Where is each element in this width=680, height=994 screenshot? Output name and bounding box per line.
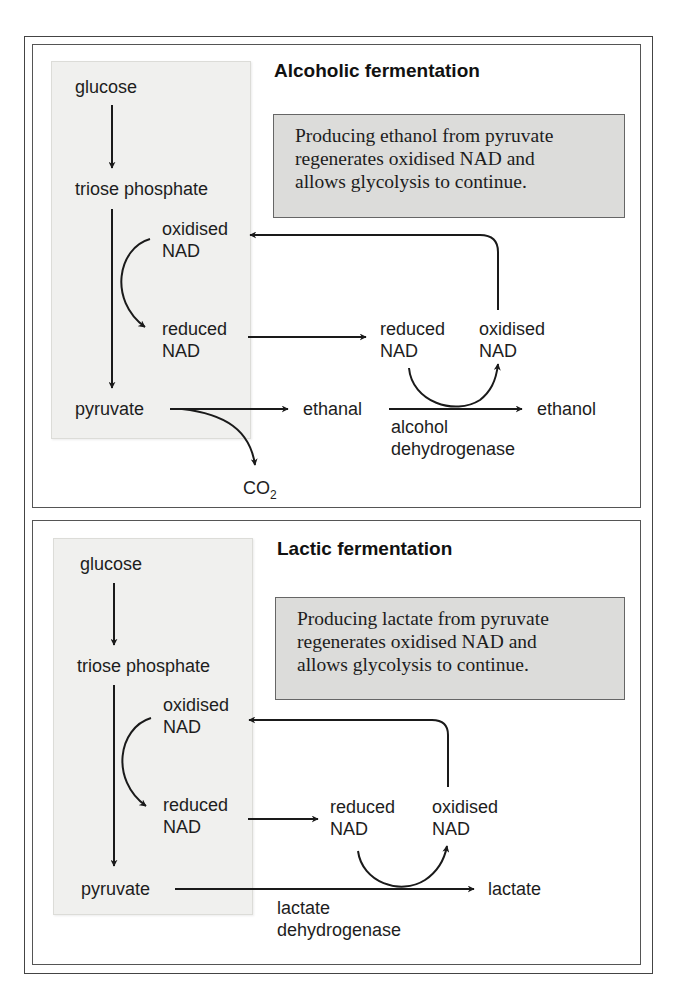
arrow-oxidised-nad-return <box>249 720 448 787</box>
pathway-arrows <box>0 0 680 994</box>
arrow-nad-cycle-lactic <box>358 846 447 887</box>
arrow-oxidised-to-reduced-nad <box>122 718 151 806</box>
arrow-nad-cycle-alcoholic <box>409 364 498 407</box>
arrow-oxidised-nad-return <box>250 235 498 310</box>
arrow-to-co2 <box>182 409 255 465</box>
arrow-oxidised-to-reduced-nad <box>121 239 150 327</box>
